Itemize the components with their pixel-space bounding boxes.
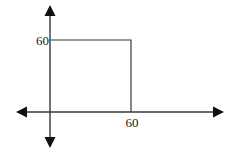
y-axis-label-60: 60 bbox=[36, 33, 49, 48]
y-axis-up-arrow-icon bbox=[45, 5, 56, 16]
y-axis-down-arrow-icon bbox=[45, 137, 56, 148]
diagram: 60 60 bbox=[0, 0, 237, 163]
x-axis-left-arrow-icon bbox=[16, 107, 27, 118]
x-axis-label-60: 60 bbox=[126, 115, 139, 130]
x-axis-right-arrow-icon bbox=[213, 107, 224, 118]
square-outline bbox=[50, 40, 131, 112]
